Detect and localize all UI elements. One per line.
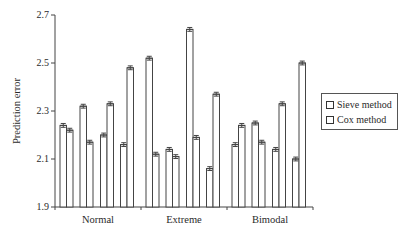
bar — [273, 149, 280, 207]
legend-label: Cox method — [337, 114, 386, 125]
bar — [232, 145, 239, 207]
bar — [259, 142, 266, 207]
y-tick-label: 1.9 — [25, 201, 49, 212]
bar — [293, 159, 300, 207]
bar — [87, 142, 94, 207]
x-category-label: Bimodal — [227, 214, 313, 225]
x-category-label: Extreme — [141, 214, 227, 225]
y-tick-label: 2.7 — [25, 9, 49, 20]
y-tick-label: 2.1 — [25, 153, 49, 164]
bar — [107, 104, 114, 207]
y-axis-label: Prediction error — [11, 66, 25, 156]
legend-item-sieve: Sieve method — [326, 97, 393, 112]
bar-chart: Prediction error 1.92.12.32.52.7 NormalE… — [0, 0, 417, 242]
bar — [173, 157, 180, 207]
bar — [101, 135, 108, 207]
bar — [121, 145, 128, 207]
bar — [279, 104, 286, 207]
legend-swatch-icon — [326, 116, 334, 124]
bar — [60, 125, 67, 207]
bar — [146, 58, 153, 207]
y-tick-label: 2.5 — [25, 57, 49, 68]
bar — [193, 137, 200, 207]
bar — [153, 154, 160, 207]
bar — [299, 63, 306, 207]
legend-item-cox: Cox method — [326, 112, 393, 127]
bar — [166, 149, 173, 207]
x-category-label: Normal — [55, 214, 141, 225]
bar — [239, 125, 246, 207]
bar — [207, 169, 214, 207]
legend: Sieve method Cox method — [321, 93, 398, 130]
bar — [127, 68, 134, 207]
bar — [67, 130, 74, 207]
bar — [252, 123, 259, 207]
bar — [80, 106, 87, 207]
legend-label: Sieve method — [337, 99, 392, 110]
y-tick-label: 2.3 — [25, 105, 49, 116]
bar — [187, 29, 194, 207]
bar — [213, 94, 220, 207]
legend-swatch-icon — [326, 101, 334, 109]
